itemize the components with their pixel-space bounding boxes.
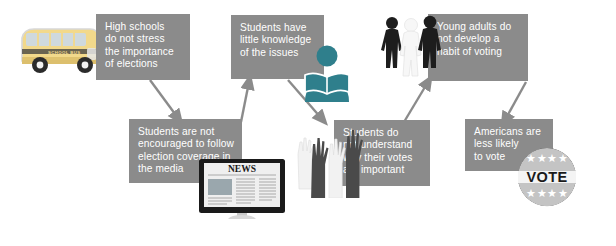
news-headline-label: NEWS: [228, 164, 256, 174]
vote-badge-illustration: ★★★★ VOTE ★★★★: [517, 147, 577, 207]
node-high-schools[interactable]: High schools do not stress the importanc…: [96, 14, 190, 80]
arrow-donotunderstand-to-youngadults: [404, 82, 428, 122]
arrow-youngadults-to-lesslikely: [505, 82, 526, 120]
vote-badge-stars-bottom: ★★★★: [526, 187, 568, 199]
vote-badge-stars-top: ★★★★: [526, 152, 568, 164]
school-bus-illustration: SCHOOL BUS: [14, 24, 106, 76]
news-monitor-illustration: NEWS: [197, 158, 289, 220]
infographic-diagram: SCHOOL BUS: [0, 0, 616, 246]
person-reading-illustration: [296, 44, 360, 106]
school-bus-label: SCHOOL BUS: [48, 50, 81, 55]
arrow-highschools-to-notencouraged: [150, 80, 178, 118]
walking-silhouettes-illustration: [378, 14, 444, 86]
vote-badge-label: VOTE: [526, 169, 567, 185]
raised-hands-illustration: [296, 122, 366, 198]
arrow-notencouraged-to-littleknowledge: [241, 82, 249, 122]
